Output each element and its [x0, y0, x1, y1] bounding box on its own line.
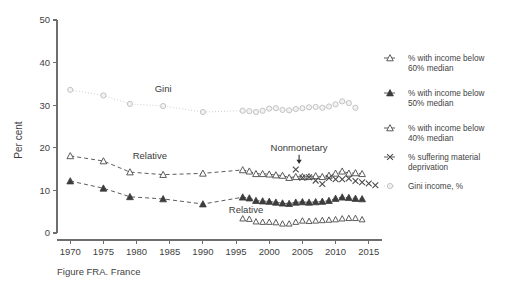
- y-tick-label: 40: [39, 57, 50, 68]
- data-point: [161, 103, 166, 108]
- figure-caption: Figure FRA. France: [57, 266, 140, 277]
- x-tick-label: 2000: [259, 246, 280, 257]
- y-tick-label: 30: [39, 100, 50, 111]
- data-point: [326, 197, 333, 203]
- legend-item-0[interactable]: % with income below60% median: [384, 54, 485, 73]
- data-point: [101, 93, 106, 98]
- x-tick-label: 1970: [60, 246, 81, 257]
- y-tick-label: 10: [39, 185, 50, 196]
- data-point: [127, 101, 132, 106]
- annotation-label: Relative: [229, 204, 263, 215]
- legend-label-line2: 40% median: [408, 134, 454, 143]
- data-point: [332, 195, 339, 201]
- data-point: [333, 176, 339, 182]
- legend-label-line2: 50% median: [408, 99, 454, 108]
- x-tick-label: 2005: [292, 246, 313, 257]
- data-point: [266, 219, 272, 224]
- data-point: [300, 106, 305, 111]
- legend-label-line2: 60% median: [408, 64, 454, 73]
- legend-item-2[interactable]: % with income below40% median: [384, 124, 485, 143]
- data-point: [293, 167, 299, 173]
- data-point: [346, 170, 353, 176]
- legend-item-1[interactable]: % with income below50% median: [384, 89, 485, 108]
- data-point: [200, 201, 207, 207]
- data-point: [353, 105, 358, 110]
- annotation-label: Relative: [133, 150, 167, 161]
- data-point: [313, 104, 318, 109]
- data-point: [286, 221, 292, 226]
- data-point: [339, 194, 346, 200]
- data-point: [293, 106, 298, 111]
- data-point: [253, 109, 258, 114]
- data-point: [346, 100, 351, 105]
- chart-canvas: 0102030405019701975198019851990199520002…: [0, 0, 521, 296]
- data-point: [319, 181, 325, 187]
- data-point: [246, 168, 253, 174]
- annotation-label: Gini: [155, 83, 172, 94]
- y-axis-title: Per cent: [13, 121, 24, 158]
- legend-label-line1: Gini income, %: [408, 182, 463, 191]
- data-point: [366, 181, 372, 187]
- legend-label-line1: % with income below: [408, 124, 485, 133]
- x-tick-label: 1995: [226, 246, 247, 257]
- data-point: [306, 218, 312, 223]
- series-line: [70, 90, 355, 112]
- data-point: [280, 221, 286, 226]
- data-point: [200, 109, 205, 114]
- chart-series: [67, 87, 378, 226]
- data-point: [273, 106, 278, 111]
- legend-item-3[interactable]: % suffering materialdeprivation: [384, 153, 480, 172]
- y-tick-label: 50: [39, 14, 50, 25]
- chart-annotations: GiniRelativeRelativeNonmonetary: [133, 83, 328, 215]
- data-point: [333, 102, 338, 107]
- legend-marker: [387, 183, 392, 188]
- data-point: [339, 168, 346, 174]
- series-4: [68, 87, 358, 114]
- data-point: [353, 215, 359, 220]
- data-point: [247, 109, 252, 114]
- data-point: [372, 182, 378, 188]
- data-point: [266, 198, 273, 204]
- data-point: [280, 107, 285, 112]
- x-tick-label: 1980: [126, 246, 147, 257]
- data-point: [293, 219, 299, 224]
- data-point: [267, 106, 272, 111]
- data-point: [359, 196, 366, 202]
- data-point: [319, 217, 325, 222]
- data-point: [253, 219, 259, 224]
- data-point: [239, 167, 246, 173]
- x-tick-label: 1990: [192, 246, 213, 257]
- data-point: [240, 216, 246, 221]
- annotation-arrow-head: [296, 160, 301, 164]
- chart-legend: % with income below60% median% with inco…: [384, 54, 485, 191]
- series-2: [240, 215, 365, 226]
- series-line: [70, 156, 362, 178]
- legend-label-line1: % with income below: [408, 54, 485, 63]
- series-0: [67, 153, 365, 181]
- x-tick-label: 1975: [93, 246, 114, 257]
- annotation-label: Nonmonetary: [271, 142, 328, 153]
- data-point: [273, 219, 279, 224]
- data-point: [240, 108, 245, 113]
- data-point: [67, 153, 74, 159]
- data-point: [287, 108, 292, 113]
- data-point: [332, 170, 339, 176]
- data-point: [67, 178, 74, 184]
- data-point: [339, 176, 345, 182]
- data-point: [359, 216, 365, 221]
- data-point: [260, 219, 266, 224]
- legend-item-4[interactable]: Gini income, %: [384, 182, 463, 191]
- series-line: [70, 181, 362, 204]
- data-point: [68, 87, 73, 92]
- data-point: [300, 218, 306, 223]
- data-point: [333, 216, 339, 221]
- data-point: [359, 179, 365, 185]
- data-point: [313, 218, 319, 223]
- data-point: [320, 105, 325, 110]
- data-point: [353, 178, 359, 184]
- x-tick-label: 1985: [159, 246, 180, 257]
- data-point: [346, 215, 352, 220]
- data-point: [339, 216, 345, 221]
- data-point: [326, 217, 332, 222]
- data-point: [260, 108, 265, 113]
